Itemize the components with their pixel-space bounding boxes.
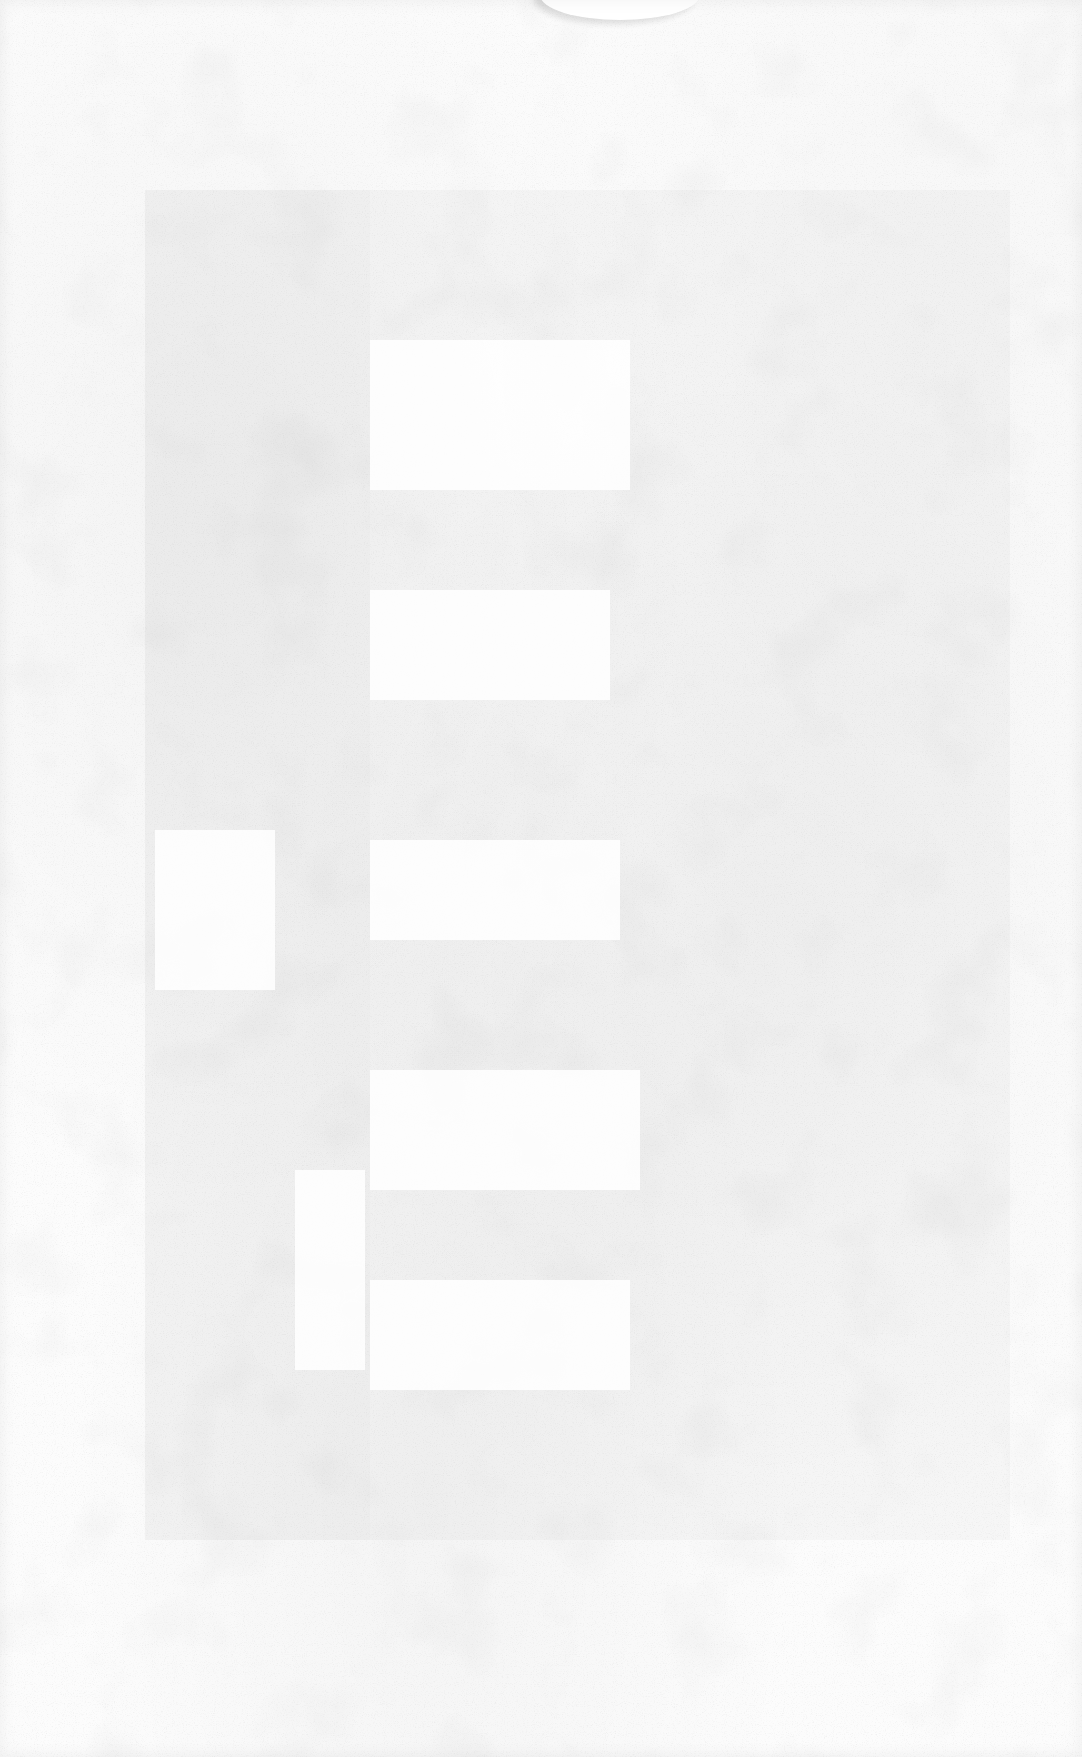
ghost-column-left xyxy=(145,190,370,1540)
ghost-cell-gap xyxy=(370,840,620,940)
ghost-cell-gap xyxy=(370,1280,630,1390)
ghost-cell-gap xyxy=(295,1170,365,1370)
ghost-cell-gap xyxy=(370,340,630,490)
ghost-cell-gap xyxy=(155,830,275,990)
scan-artifact-blob xyxy=(540,0,700,20)
scanned-blank-page xyxy=(0,0,1082,1757)
ghost-cell-gap xyxy=(370,590,610,700)
bleed-through-table-grid xyxy=(145,190,1010,1540)
ghost-column-right xyxy=(370,190,1010,1540)
ghost-cell-gap xyxy=(370,1070,640,1190)
page-edge-shadow xyxy=(0,0,1082,1757)
paper-texture xyxy=(0,0,1082,1757)
